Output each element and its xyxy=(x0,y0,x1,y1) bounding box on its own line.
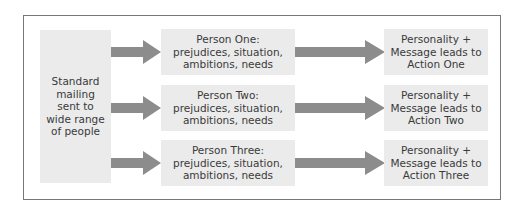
action-box-two: Personality + Message leads to Action Tw… xyxy=(384,85,488,131)
source-box: Standard mailing sent to wide range of p… xyxy=(40,30,111,183)
person-detail: ambitions, needs xyxy=(173,114,283,127)
person-detail: ambitions, needs xyxy=(173,58,283,71)
person-box-two: Person Two: prejudices, situation, ambit… xyxy=(161,85,295,131)
source-label: Standard mailing sent to wide range of p… xyxy=(44,75,107,138)
person-detail: prejudices, situation, xyxy=(173,46,283,59)
action-box-one: Personality + Message leads to Action On… xyxy=(384,29,488,75)
action-line: Personality + xyxy=(390,144,481,157)
person-detail: ambitions, needs xyxy=(173,169,283,182)
person-title: Person Two: xyxy=(173,89,283,102)
arrow-right-icon xyxy=(295,96,385,120)
action-line: Personality + xyxy=(390,33,481,46)
arrow-right-icon xyxy=(111,40,161,64)
person-detail: prejudices, situation, xyxy=(173,157,283,170)
action-line: Action Three xyxy=(390,169,481,182)
person-title: Person Three: xyxy=(173,144,283,157)
action-line: Action Two xyxy=(390,114,481,127)
arrow-right-icon xyxy=(111,96,161,120)
person-detail: prejudices, situation, xyxy=(173,102,283,115)
action-line: Personality + xyxy=(390,89,481,102)
arrow-right-icon xyxy=(295,40,385,64)
arrow-right-icon xyxy=(111,151,161,175)
person-box-three: Person Three: prejudices, situation, amb… xyxy=(161,140,295,186)
action-box-three: Personality + Message leads to Action Th… xyxy=(384,140,488,186)
action-line: Message leads to xyxy=(390,157,481,170)
action-line: Action One xyxy=(390,58,481,71)
action-line: Message leads to xyxy=(390,102,481,115)
action-line: Message leads to xyxy=(390,46,481,59)
arrow-right-icon xyxy=(295,151,385,175)
person-title: Person One: xyxy=(173,33,283,46)
person-box-one: Person One: prejudices, situation, ambit… xyxy=(161,29,295,75)
